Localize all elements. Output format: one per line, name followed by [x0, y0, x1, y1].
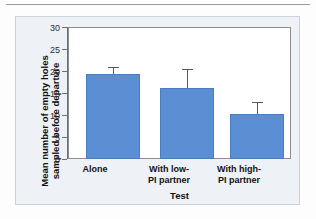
error-cap-alone [108, 67, 119, 68]
error-bar-with-high-pi-partner [257, 103, 258, 114]
error-bar-alone [113, 68, 114, 74]
y-tick-label-30: 30 [36, 24, 60, 33]
bar-with-high-pi-partner[interactable] [230, 114, 284, 159]
bar-with-low-pi-partner[interactable] [160, 88, 214, 159]
page-top-rule [6, 4, 310, 5]
y-tick-mark-0 [62, 159, 67, 160]
x-tick-label-with-high-pi-partner-line2: PI partner [200, 175, 278, 186]
y-tick-label-15: 15 [36, 90, 60, 99]
y-tick-label-10: 10 [36, 112, 60, 121]
bars-layer [68, 27, 291, 159]
y-tick-label-5: 5 [36, 134, 60, 143]
x-tick-label-with-high-pi-partner: With high- PI partner [200, 164, 278, 185]
x-tick-label-with-low-pi-partner: With low- PI partner [130, 164, 208, 185]
x-tick-label-with-low-pi-partner-line2: PI partner [130, 175, 208, 186]
figure-page: Mean number of empty holes sampled befor… [0, 0, 316, 219]
x-tick-label-with-high-pi-partner-line1: With high- [200, 164, 278, 175]
error-cap-with-high-pi-partner [252, 102, 263, 103]
error-cap-with-low-pi-partner [182, 69, 193, 70]
error-bar-with-low-pi-partner [187, 70, 188, 88]
x-tick-label-with-low-pi-partner-line1: With low- [130, 164, 208, 175]
y-tick-label-25: 25 [36, 46, 60, 55]
x-tick-label-alone: Alone [56, 164, 134, 175]
bar-alone[interactable] [86, 74, 140, 159]
x-axis-title: Test [68, 190, 291, 201]
x-tick-label-alone-line1: Alone [56, 164, 134, 175]
y-tick-label-20: 20 [36, 68, 60, 77]
